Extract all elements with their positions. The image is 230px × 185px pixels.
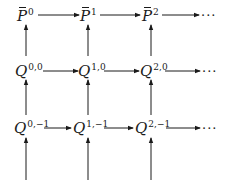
node-superscript: 1,0 [91, 62, 105, 72]
node-superscript: 2,−1 [148, 119, 170, 129]
node-base: P [80, 9, 90, 24]
node-p-bar-0: P0 [17, 8, 34, 24]
arrow-layer [0, 0, 230, 185]
node-p-bar-2: P2 [142, 8, 159, 24]
node-base: Q [135, 119, 147, 137]
continuation-dots-row3: ··· [202, 122, 217, 135]
node-p-bar-1: P1 [80, 8, 97, 24]
node-base: P [142, 9, 152, 24]
node-q-0-0: Q0,0 [15, 63, 43, 79]
node-q-2-0: Q2,0 [140, 63, 168, 79]
node-superscript: 2,0 [153, 62, 167, 72]
node-base: Q [15, 62, 27, 80]
node-base: Q [140, 62, 152, 80]
node-q-1-minus1: Q1,−1 [73, 120, 108, 136]
node-q-2-minus1: Q2,−1 [135, 120, 170, 136]
continuation-dots-row1: ··· [201, 9, 216, 22]
node-base: Q [73, 119, 85, 137]
continuation-dots-row2: ··· [202, 65, 217, 78]
node-superscript: 1 [91, 7, 97, 17]
node-superscript: 2 [153, 7, 159, 17]
node-base: P [17, 9, 27, 24]
node-q-1-0: Q1,0 [78, 63, 106, 79]
node-superscript: 0,0 [28, 62, 42, 72]
node-superscript: 0 [28, 7, 34, 17]
node-superscript: 1,−1 [86, 119, 108, 129]
node-base: Q [78, 62, 90, 80]
node-base: Q [14, 119, 26, 137]
node-superscript: 0,−1 [27, 119, 49, 129]
node-q-0-minus1: Q0,−1 [14, 120, 49, 136]
